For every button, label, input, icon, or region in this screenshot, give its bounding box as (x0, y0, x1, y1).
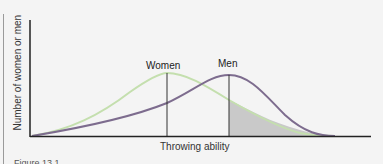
figure-caption: Figure 13.1 (14, 158, 60, 164)
y-axis-label: Number of women or men (12, 21, 23, 131)
women-label: Women (146, 60, 180, 71)
x-axis-label: Throwing ability (160, 141, 229, 152)
men-label: Men (218, 58, 237, 69)
shaded-area (229, 100, 335, 136)
men-curve (32, 75, 335, 136)
chart-canvas (0, 0, 383, 164)
women-curve (32, 73, 335, 136)
